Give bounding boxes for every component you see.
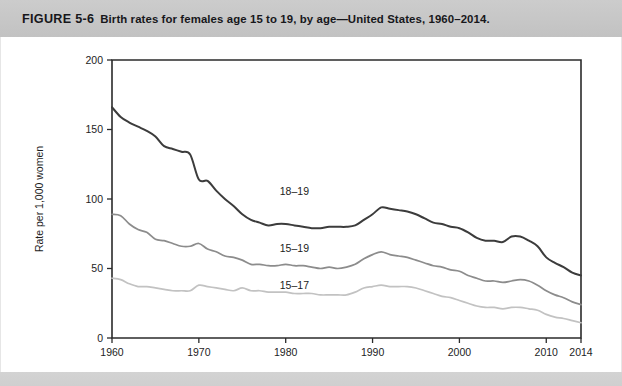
- svg-text:1990: 1990: [361, 346, 385, 358]
- svg-text:2014: 2014: [569, 346, 593, 358]
- svg-text:100: 100: [85, 193, 103, 205]
- y-axis: 050100150200: [85, 54, 112, 344]
- chart-body: 050100150200 196019701980199020002010201…: [0, 37, 622, 372]
- series-label-18-19: 18–19: [280, 185, 309, 197]
- figure-caption-band: FIGURE 5-6Birth rates for females age 15…: [0, 0, 622, 37]
- svg-text:1970: 1970: [187, 346, 211, 358]
- figure-caption: FIGURE 5-6Birth rates for females age 15…: [22, 12, 490, 26]
- svg-text:Rate per 1,000 women: Rate per 1,000 women: [33, 146, 45, 252]
- svg-text:2010: 2010: [535, 346, 559, 358]
- plot-frame: [112, 60, 581, 338]
- series-label-15-17: 15–17: [280, 279, 309, 291]
- svg-text:50: 50: [91, 262, 103, 274]
- svg-text:0: 0: [97, 332, 103, 344]
- svg-text:1960: 1960: [100, 346, 124, 358]
- series-lines: [112, 107, 581, 322]
- series-line-15-17: [112, 278, 581, 322]
- series-line-18-19: [112, 107, 581, 275]
- figure-title: Birth rates for females age 15 to 19, by…: [100, 13, 489, 25]
- series-label-15-19: 15–19: [280, 242, 309, 254]
- x-axis: 1960197019801990200020102014: [100, 338, 593, 358]
- line-chart: 050100150200 196019701980199020002010201…: [1, 37, 622, 372]
- svg-text:2000: 2000: [448, 346, 472, 358]
- series-labels: 18–1915–1915–17: [280, 185, 309, 292]
- figure-container: FIGURE 5-6Birth rates for females age 15…: [0, 0, 622, 386]
- y-axis-title: Rate per 1,000 women: [33, 146, 45, 252]
- figure-footer-band: [0, 372, 622, 386]
- svg-text:1980: 1980: [274, 346, 298, 358]
- figure-number: FIGURE 5-6: [22, 12, 94, 26]
- svg-text:200: 200: [85, 54, 103, 66]
- svg-text:150: 150: [85, 123, 103, 135]
